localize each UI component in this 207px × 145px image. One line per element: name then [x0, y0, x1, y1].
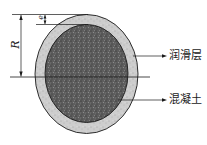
radius-arrow-bottom-icon [19, 72, 22, 77]
concrete-cross-section-diagram [0, 0, 207, 145]
thickness-arrow-bottom-icon [44, 21, 47, 25]
lubrication-leader-arrow-icon [162, 54, 167, 57]
radius-label: R [9, 40, 22, 48]
thickness-label: e [36, 15, 45, 20]
concrete-core [45, 25, 128, 123]
lubrication-layer-label: 润滑层 [169, 50, 202, 62]
concrete-leader-arrow-icon [162, 98, 167, 101]
radius-arrow-top-icon [19, 15, 22, 20]
concrete-label: 混凝土 [169, 94, 202, 106]
